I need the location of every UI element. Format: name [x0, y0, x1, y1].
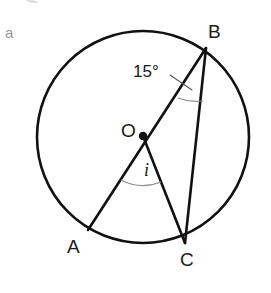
centre-point-dot [139, 132, 147, 140]
line-segment-OC [143, 136, 185, 243]
point-label-A: A [67, 236, 80, 257]
part-label-a: a [5, 24, 14, 41]
point-label-B: B [208, 21, 221, 42]
crop-artifact-mark [25, 0, 39, 3]
point-label-C: C [180, 249, 194, 270]
angle-arc-at-O [121, 180, 161, 185]
angle-label-i: i [144, 160, 149, 180]
angle-label-15-degrees: 15° [133, 62, 159, 81]
point-label-O: O [121, 120, 136, 141]
circle-geometry-figure: a B 15° O i A C [0, 0, 271, 293]
